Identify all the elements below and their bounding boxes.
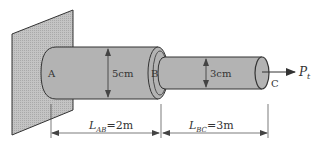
load-label: Pt	[298, 65, 311, 81]
length-symbol-bc: L	[188, 119, 196, 132]
point-label-a: A	[47, 68, 56, 79]
diameter-label-bc: 3cm	[210, 68, 232, 79]
shaft-segment-ab	[41, 47, 168, 99]
load-subscript: t	[307, 72, 311, 81]
stepped-shaft-diagram: A B C 5cm 3cm Pt LAB=2m LBC=3m	[0, 0, 314, 148]
length-label-ab: LAB=2m	[88, 119, 134, 134]
length-value-ab: =2m	[107, 119, 134, 132]
diameter-label-ab: 5cm	[112, 68, 134, 79]
length-subscript-ab: AB	[95, 126, 106, 134]
length-value-bc: =3m	[207, 119, 234, 132]
length-symbol-ab: L	[88, 119, 96, 132]
length-label-bc: LBC=3m	[188, 119, 234, 134]
point-label-b: B	[151, 68, 158, 79]
point-label-c: C	[271, 78, 279, 89]
length-subscript-bc: BC	[195, 126, 207, 134]
